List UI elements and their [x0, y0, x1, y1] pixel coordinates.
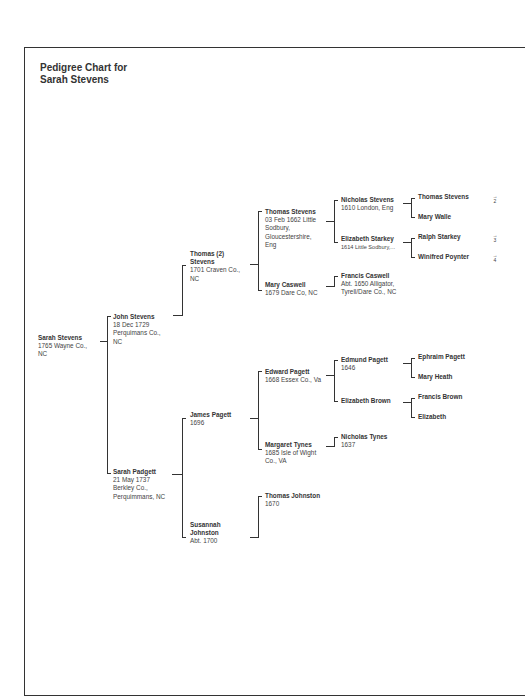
connector-line: [172, 474, 182, 475]
person-detail: Tyrell/Dare Co., NC: [341, 288, 416, 296]
person-detail: 1668 Essex Co., Va: [265, 376, 335, 384]
person-name: Susannah Johnston: [190, 521, 235, 537]
person-susannah-johnston[interactable]: Susannah Johnston Abt. 1700: [190, 521, 235, 546]
person-name: Edward Pagett: [265, 368, 335, 376]
continuation-marker[interactable]: →3: [491, 233, 499, 243]
connector-line: [334, 437, 335, 447]
person-detail: Eng: [265, 241, 330, 249]
person-name: Thomas (2) Stevens: [190, 250, 235, 266]
person-detail: 1696: [190, 419, 250, 427]
person-name: Elizabeth: [418, 413, 488, 421]
connector-line: [403, 203, 411, 204]
connector-line: [182, 265, 186, 266]
person-detail: Perquimans Co.,: [113, 329, 173, 337]
person-name: Francis Brown: [418, 393, 488, 401]
person-francis-caswell[interactable]: Francis Caswell Abt. 1650 Alligator, Tyr…: [341, 272, 416, 297]
person-elizabeth-brown[interactable]: Elizabeth Brown: [341, 397, 406, 405]
connector-line: [258, 211, 262, 212]
connector-line: [250, 264, 258, 265]
person-elizabeth[interactable]: Elizabeth: [418, 413, 488, 421]
person-name: Winifred Poynter: [418, 253, 488, 261]
person-nicholas-tynes[interactable]: Nicholas Tynes 1637: [341, 433, 406, 449]
person-sarah-padgett[interactable]: Sarah Padgett 21 May 1737 Berkley Co., P…: [113, 468, 183, 501]
person-name: Thomas Johnston: [265, 492, 335, 500]
connector-line: [411, 238, 412, 258]
title-line-1: Pedigree Chart for: [40, 62, 127, 74]
connector-line: [250, 537, 258, 538]
continuation-marker[interactable]: →4: [491, 253, 499, 263]
chart-number: 2: [491, 199, 499, 204]
connector-line: [182, 265, 183, 316]
person-name: Mary Caswell: [265, 281, 335, 289]
person-detail: 21 May 1737: [113, 476, 183, 484]
person-margaret-tynes[interactable]: Margaret Tynes 1685 Isle of Wight Co., V…: [265, 441, 330, 466]
connector-line: [411, 257, 415, 258]
connector-line: [403, 402, 411, 403]
connector-line: [334, 200, 338, 201]
connector-line: [334, 276, 338, 277]
continuation-marker[interactable]: →2: [491, 194, 499, 204]
person-sarah-stevens[interactable]: Sarah Stevens 1765 Wayne Co., NC: [38, 334, 98, 359]
connector-line: [326, 375, 334, 376]
connector-line: [411, 417, 415, 418]
connector-line: [258, 496, 259, 538]
connector-line: [334, 401, 338, 402]
person-elizabeth-starkey[interactable]: Elizabeth Starkey 1614 Little Sodbury,..…: [341, 235, 409, 251]
person-edmund-pagett[interactable]: Edmund Pagett 1646: [341, 356, 406, 372]
connector-line: [107, 316, 111, 317]
connector-line: [411, 238, 415, 239]
connector-line: [411, 398, 412, 418]
person-detail: 1679 Dare Co, NC: [265, 289, 335, 297]
page-title: Pedigree Chart for Sarah Stevens: [40, 62, 127, 86]
person-detail: 1765 Wayne Co.,: [38, 342, 98, 350]
person-detail: NC: [113, 338, 173, 346]
person-detail: 1610 London, Eng: [341, 204, 406, 212]
connector-line: [258, 290, 262, 291]
person-mary-walle[interactable]: Mary Walle: [418, 213, 488, 221]
person-detail: Abt. 1650 Alligator,: [341, 280, 416, 288]
connector-line: [334, 242, 338, 243]
person-thomas-stevens-g6[interactable]: Thomas Stevens: [418, 193, 488, 201]
connector-line: [411, 377, 415, 378]
person-winifred-poynter[interactable]: Winifred Poynter: [418, 253, 488, 261]
person-edward-pagett[interactable]: Edward Pagett 1668 Essex Co., Va: [265, 368, 335, 384]
person-detail: Abt. 1700: [190, 537, 235, 545]
person-name: Ralph Starkey: [418, 233, 488, 241]
connector-line: [411, 198, 412, 218]
person-thomas-2-stevens[interactable]: Thomas (2) Stevens 1701 Craven Co., NC: [190, 250, 250, 283]
person-nicholas-stevens[interactable]: Nicholas Stevens 1610 London, Eng: [341, 196, 406, 212]
connector-line: [258, 211, 259, 291]
person-detail: Sodbury,: [265, 224, 330, 232]
connector-line: [107, 316, 108, 474]
person-detail: Perquimmans, NC: [113, 493, 183, 501]
connector-line: [334, 360, 338, 361]
connector-line: [258, 371, 259, 450]
person-francis-brown[interactable]: Francis Brown: [418, 393, 488, 401]
chart-number: 4: [491, 258, 499, 263]
connector-line: [411, 398, 415, 399]
person-name: Thomas Stevens: [418, 193, 488, 201]
connector-line: [182, 537, 186, 538]
person-name: Ephraim Pagett: [418, 353, 488, 361]
chart-number: 3: [491, 238, 499, 243]
connector-line: [326, 446, 334, 447]
person-detail: 1614 Little Sodbury,...: [341, 243, 409, 251]
person-name: Francis Caswell: [341, 272, 416, 280]
person-john-stevens[interactable]: John Stevens 18 Dec 1729 Perquimans Co.,…: [113, 313, 173, 346]
connector-line: [411, 358, 415, 359]
person-thomas-johnston[interactable]: Thomas Johnston 1670: [265, 492, 335, 508]
connector-line: [326, 221, 334, 222]
person-thomas-stevens-1662[interactable]: Thomas Stevens 03 Feb 1662 Little Sodbur…: [265, 208, 330, 249]
person-mary-caswell[interactable]: Mary Caswell 1679 Dare Co, NC: [265, 281, 335, 297]
connector-line: [258, 371, 262, 372]
person-ephraim-pagett[interactable]: Ephraim Pagett: [418, 353, 488, 361]
connector-line: [107, 473, 111, 474]
connector-line: [411, 217, 415, 218]
person-mary-heath[interactable]: Mary Heath: [418, 373, 488, 381]
person-name: Nicholas Tynes: [341, 433, 406, 441]
person-detail: 1701 Craven Co.,: [190, 266, 250, 274]
connector-line: [334, 360, 335, 402]
connector-line: [334, 276, 335, 287]
person-ralph-starkey[interactable]: Ralph Starkey: [418, 233, 488, 241]
person-james-pagett[interactable]: James Pagett 1696: [190, 411, 250, 427]
